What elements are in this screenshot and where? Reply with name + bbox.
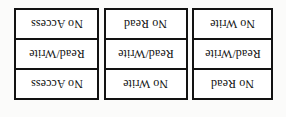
access-cell: No Access xyxy=(16,68,97,98)
access-cell: No Read xyxy=(194,68,271,98)
access-cell-label: Read/Write xyxy=(205,48,261,60)
access-cell: No Write xyxy=(106,68,186,98)
access-cell: No Write xyxy=(194,10,271,38)
access-cell-label: No Write xyxy=(210,18,255,30)
access-cell-label: No Read xyxy=(124,18,167,30)
access-cell: No Read xyxy=(106,10,186,38)
access-box-3: No Write Read/Write No Read xyxy=(192,8,273,100)
access-cell: No Access xyxy=(16,10,97,38)
access-cell-label: No Access xyxy=(31,78,83,90)
access-cell-label: No Write xyxy=(123,78,168,90)
access-rights-diagram: No Access Read/Write No Access No Read R… xyxy=(0,0,286,117)
access-cell-label: Read/Write xyxy=(118,48,174,60)
access-cell: Read/Write xyxy=(106,38,186,68)
access-cell-label: No Access xyxy=(31,18,83,30)
access-cell: Read/Write xyxy=(16,38,97,68)
access-box-1: No Access Read/Write No Access xyxy=(14,8,99,100)
access-box-2: No Read Read/Write No Write xyxy=(104,8,188,100)
access-cell: Read/Write xyxy=(194,38,271,68)
access-cell-label: Read/Write xyxy=(29,48,85,60)
access-cell-label: No Read xyxy=(211,78,254,90)
